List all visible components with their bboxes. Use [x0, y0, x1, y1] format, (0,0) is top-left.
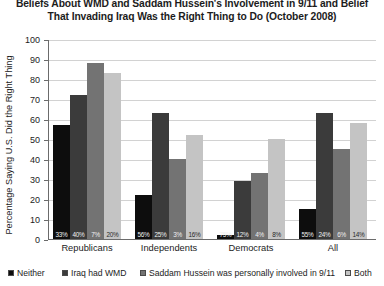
bar: 6%	[333, 149, 350, 239]
bar-value-label: 3%	[169, 231, 186, 239]
bar: 25%	[152, 113, 169, 239]
y-axis-tick-label: 100	[25, 35, 40, 45]
legend-item[interactable]: Both	[345, 268, 372, 278]
bar-value-label: 25%	[152, 231, 169, 239]
bar-value-label: 56%	[135, 231, 152, 239]
bar: 33%	[53, 125, 70, 239]
y-axis-tick-label: 30	[30, 175, 40, 185]
y-axis-tick-label: 50	[30, 135, 40, 145]
y-axis-tick-label: 40	[30, 155, 40, 165]
bar-value-label: 33%	[53, 231, 70, 239]
bar-group: 33%40%7%20%Republicans	[53, 40, 121, 239]
bar: 75%	[217, 235, 234, 239]
bar-value-label: 20%	[104, 231, 121, 239]
bar: 14%	[350, 123, 367, 239]
bar-value-label: 8%	[268, 231, 285, 239]
bar: 40%	[70, 95, 87, 239]
bar: 8%	[268, 139, 285, 239]
chart-legend: NeitherIraq had WMDSaddam Hussein was pe…	[0, 268, 384, 284]
y-axis-tick-label: 20	[30, 195, 40, 205]
chart-title-line-1: Beliefs About WMD and Saddam Hussein's I…	[0, 0, 384, 10]
bar-value-label: 75%	[217, 231, 234, 239]
bar: 3%	[169, 159, 186, 239]
legend-label: Saddam Hussein was personally involved i…	[149, 268, 335, 278]
legend-item[interactable]: Iraq had WMD	[62, 268, 126, 278]
bar: 56%	[135, 195, 152, 239]
legend-item[interactable]: Saddam Hussein was personally involved i…	[140, 268, 335, 278]
legend-swatch-icon	[140, 270, 146, 276]
legend-label: Neither	[17, 268, 45, 278]
y-axis-tick-label: 60	[30, 115, 40, 125]
y-axis-tick-labels: 0102030405060708090100	[0, 40, 44, 240]
bar-value-label: 14%	[350, 231, 367, 239]
x-axis-group-label: Democrats	[217, 243, 285, 253]
bar-group: 55%24%6%14%All	[299, 40, 367, 239]
y-axis-tick-label: 80	[30, 75, 40, 85]
bar-group: 56%25%3%16%Independents	[135, 40, 203, 239]
bar: 12%	[234, 181, 251, 239]
bar-value-label: 55%	[299, 231, 316, 239]
bar-value-label: 4%	[251, 231, 268, 239]
y-axis-tick-label: 10	[30, 215, 40, 225]
bar: 4%	[251, 173, 268, 239]
bar: 16%	[186, 135, 203, 239]
legend-item[interactable]: Neither	[8, 268, 45, 278]
legend-label: Both	[354, 268, 372, 278]
y-axis-tick-mark	[44, 240, 48, 241]
x-axis-group-label: Republicans	[53, 243, 121, 253]
bar: 20%	[104, 73, 121, 239]
y-axis-tick-label: 70	[30, 95, 40, 105]
bar: 7%	[87, 63, 104, 239]
legend-swatch-icon	[345, 270, 351, 276]
bar-value-label: 24%	[316, 231, 333, 239]
bar-value-label: 40%	[70, 231, 87, 239]
bar-value-label: 7%	[87, 231, 104, 239]
chart-title-line-2: That Invading Iraq Was the Right Thing t…	[0, 10, 384, 23]
x-axis-group-label: Independents	[135, 243, 203, 253]
bar-group: 75%12%4%8%Democrats	[217, 40, 285, 239]
legend-label: Iraq had WMD	[71, 268, 126, 278]
bar-value-label: 16%	[186, 231, 203, 239]
y-axis-tick-label: 90	[30, 55, 40, 65]
bar-value-label: 6%	[333, 231, 350, 239]
chart-container: Beliefs About WMD and Saddam Hussein's I…	[0, 0, 384, 286]
bar: 55%	[299, 209, 316, 239]
legend-swatch-icon	[8, 270, 14, 276]
x-axis-group-label: All	[299, 243, 367, 253]
chart-title: Beliefs About WMD and Saddam Hussein's I…	[0, 0, 384, 23]
bar-value-label: 12%	[234, 231, 251, 239]
legend-swatch-icon	[62, 270, 68, 276]
plot-area: 33%40%7%20%Republicans56%25%3%16%Indepen…	[48, 40, 376, 240]
y-axis-tick-label: 0	[35, 235, 40, 245]
bar: 24%	[316, 113, 333, 239]
